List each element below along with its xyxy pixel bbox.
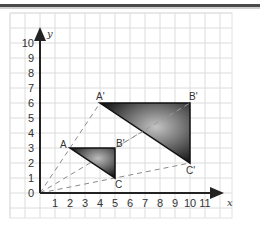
x-tick-labels: 1234567891011: [52, 197, 211, 209]
y-tick-label: 2: [28, 157, 34, 169]
y-tick-label: 9: [28, 52, 34, 64]
x-tick-label: 4: [97, 197, 103, 209]
label-a: A: [60, 139, 67, 150]
label-c-prime: C': [186, 165, 195, 176]
coordinate-plane: y x 0 1234567891011 12345678910 A B' C A…: [0, 0, 260, 226]
y-tick-label: 8: [28, 67, 34, 79]
y-tick-label: 4: [28, 127, 34, 139]
label-c: C: [115, 179, 122, 190]
y-tick-label: 1: [28, 172, 34, 184]
y-tick-labels: 12345678910: [22, 37, 34, 184]
x-tick-label: 11: [199, 197, 210, 209]
label-a-prime: A': [96, 91, 105, 102]
x-tick-label: 5: [112, 197, 118, 209]
y-tick-label: 6: [28, 97, 34, 109]
origin-label: 0: [28, 187, 34, 199]
x-tick-label: 6: [127, 197, 133, 209]
x-tick-label: 10: [184, 197, 196, 209]
x-tick-label: 2: [67, 197, 73, 209]
y-axis-label: y: [46, 28, 53, 39]
label-b-prime: B': [189, 91, 198, 102]
x-tick-label: 3: [82, 197, 88, 209]
x-tick-label: 8: [157, 197, 163, 209]
y-tick-label: 7: [28, 82, 34, 94]
x-axis-label: x: [227, 197, 233, 208]
y-tick-label: 3: [28, 142, 34, 154]
x-tick-label: 7: [142, 197, 148, 209]
y-tick-label: 10: [22, 37, 34, 49]
x-tick-label: 9: [172, 197, 178, 209]
label-b: B': [116, 138, 125, 149]
y-tick-label: 5: [28, 112, 34, 124]
x-tick-label: 1: [52, 197, 58, 209]
